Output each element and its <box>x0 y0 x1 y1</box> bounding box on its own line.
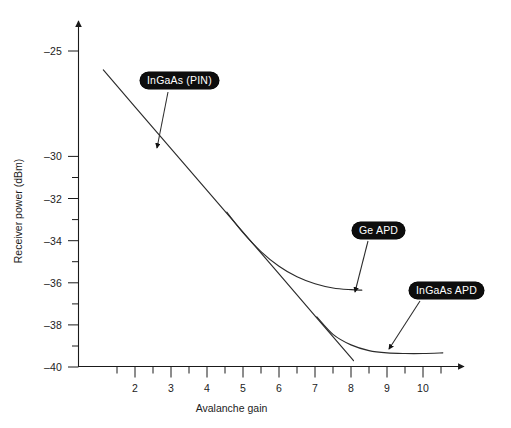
callout-leader-line <box>389 301 420 349</box>
xtick-label-10: 10 <box>417 382 429 394</box>
series-line-ingaas-apd <box>317 317 443 354</box>
xtick-label-5: 5 <box>240 382 246 394</box>
series-line-ge-apd <box>227 212 362 290</box>
xtick-label-9: 9 <box>384 382 390 394</box>
ytick-label-minus32: –32 <box>34 193 62 205</box>
axis-lines <box>79 21 465 367</box>
callout-leader-line <box>157 92 168 148</box>
callout-ge-apd: Ge APD <box>352 222 405 239</box>
chart-figure: –25 –30 –32 –34 –36 –38 –40 2 3 4 5 6 7 … <box>0 0 511 428</box>
ytick-label-minus34: –34 <box>34 235 62 247</box>
callout-ingaas-apd: InGaAs APD <box>409 282 484 299</box>
x-axis-title-text: Avalanche gain <box>196 402 268 414</box>
callout-ingaas-pin: InGaAs (PIN) <box>140 72 219 89</box>
ytick-label-minus36: –36 <box>34 277 62 289</box>
plot-canvas <box>0 0 511 428</box>
xtick-label-8: 8 <box>348 382 354 394</box>
ytick-label-minus38: –38 <box>34 319 62 331</box>
series-line-ingaas-pin <box>103 70 353 361</box>
xtick-label-7: 7 <box>312 382 318 394</box>
y-minor-ticks <box>72 178 79 347</box>
xtick-label-4: 4 <box>204 382 210 394</box>
data-series-group <box>103 70 442 361</box>
callout-leader-line <box>355 241 368 292</box>
y-major-ticks <box>68 51 79 367</box>
y-axis-title: Receiver power (dBm) <box>12 151 24 271</box>
ytick-label-minus25: –25 <box>34 45 62 57</box>
xtick-label-2: 2 <box>132 382 138 394</box>
ytick-label-minus40: –40 <box>34 361 62 373</box>
annotation-arrows <box>157 92 420 349</box>
ytick-label-minus30: –30 <box>34 150 62 162</box>
xtick-label-3: 3 <box>168 382 174 394</box>
xtick-label-6: 6 <box>276 382 282 394</box>
x-axis-title: Avalanche gain <box>0 402 511 414</box>
x-major-ticks <box>135 367 423 378</box>
